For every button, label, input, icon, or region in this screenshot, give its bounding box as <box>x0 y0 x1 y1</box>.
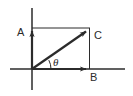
label-angle-theta: θ <box>53 56 59 68</box>
angle-arc-theta <box>49 60 51 69</box>
label-vector-a: A <box>17 26 25 38</box>
vector-c-arrow <box>32 32 86 70</box>
vector-diagram: A B C θ <box>0 0 133 96</box>
label-vector-c: C <box>94 29 102 41</box>
vector-diagram-canvas: A B C θ <box>0 0 133 96</box>
label-vector-b: B <box>90 71 97 83</box>
